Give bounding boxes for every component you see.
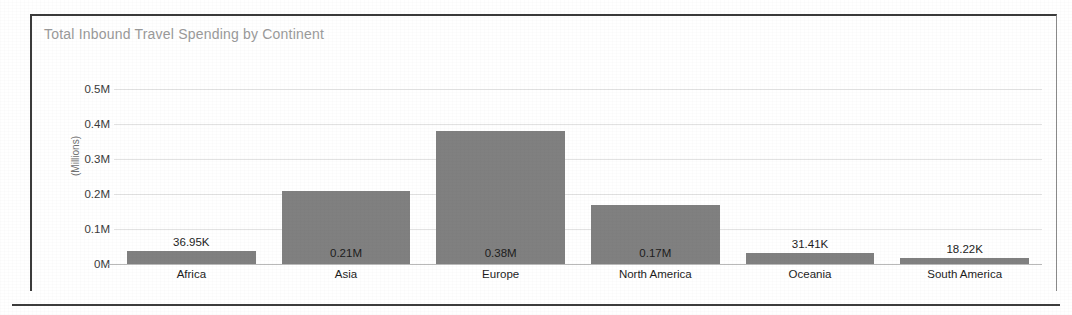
bar-value-label: 31.41K bbox=[733, 238, 888, 250]
bar[interactable] bbox=[127, 251, 255, 264]
bar[interactable] bbox=[746, 253, 874, 264]
chart-title: Total Inbound Travel Spending by Contine… bbox=[44, 26, 324, 42]
bar[interactable] bbox=[436, 131, 564, 264]
bar-value-label: 36.95K bbox=[114, 236, 269, 248]
bar-value-label: 18.22K bbox=[887, 243, 1042, 255]
chart-panel: Total Inbound Travel Spending by Contine… bbox=[30, 14, 1057, 291]
bar-slot: 0.17M bbox=[578, 89, 733, 264]
x-axis-category-label: Oceania bbox=[733, 268, 888, 280]
bar-slot: 0.38M bbox=[423, 89, 578, 264]
y-axis-tick-label: 0.2M bbox=[36, 188, 110, 200]
y-axis-tick-label: 0.1M bbox=[36, 223, 110, 235]
x-axis-category-label: Asia bbox=[269, 268, 424, 280]
x-axis-category-label: North America bbox=[578, 268, 733, 280]
bars-layer: 36.95K0.21M0.38M0.17M31.41K18.22K bbox=[114, 89, 1042, 264]
bar-slot: 31.41K bbox=[733, 89, 888, 264]
x-axis-line bbox=[108, 264, 1042, 265]
y-axis-tick-label: 0.4M bbox=[36, 118, 110, 130]
y-axis-tick-label: 0M bbox=[36, 258, 110, 270]
bar-value-label: 0.21M bbox=[269, 247, 424, 259]
y-axis-tick-label: 0.5M bbox=[36, 83, 110, 95]
y-axis-tick-label: 0.3M bbox=[36, 153, 110, 165]
page-bottom-rule bbox=[12, 304, 1060, 306]
bar-slot: 0.21M bbox=[269, 89, 424, 264]
bar-slot: 18.22K bbox=[887, 89, 1042, 264]
y-axis-tick-labels: 0.5M0.4M0.3M0.2M0.1M0M bbox=[32, 89, 110, 264]
x-axis-category-label: Europe bbox=[423, 268, 578, 280]
bar-value-label: 0.17M bbox=[578, 247, 733, 259]
bar-slot: 36.95K bbox=[114, 89, 269, 264]
x-axis-category-label: Africa bbox=[114, 268, 269, 280]
bar[interactable] bbox=[900, 258, 1028, 264]
bar-value-label: 0.38M bbox=[423, 247, 578, 259]
x-axis-category-label: South America bbox=[887, 268, 1042, 280]
